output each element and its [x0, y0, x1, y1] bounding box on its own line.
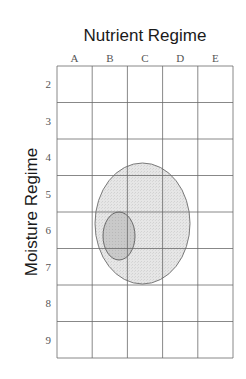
column-labels: ABCDE — [71, 52, 219, 64]
column-label: E — [212, 52, 219, 64]
row-label: 2 — [46, 78, 52, 90]
row-label: 8 — [46, 297, 52, 309]
column-label: C — [141, 52, 148, 64]
column-label: A — [71, 52, 79, 64]
column-label: D — [176, 52, 184, 64]
column-label: B — [106, 52, 113, 64]
row-label: 6 — [46, 224, 52, 236]
small-optimum-ellipse — [103, 212, 135, 260]
row-label: 5 — [46, 188, 52, 200]
grid-lines — [57, 66, 233, 358]
row-label: 7 — [46, 261, 52, 273]
row-label: 4 — [46, 151, 52, 163]
row-labels: 23456789 — [46, 78, 52, 346]
row-label: 3 — [46, 115, 52, 127]
row-label: 9 — [46, 334, 52, 346]
ellipse-layer — [95, 163, 190, 284]
edatopic-grid: ABCDE 23456789 — [0, 0, 246, 379]
